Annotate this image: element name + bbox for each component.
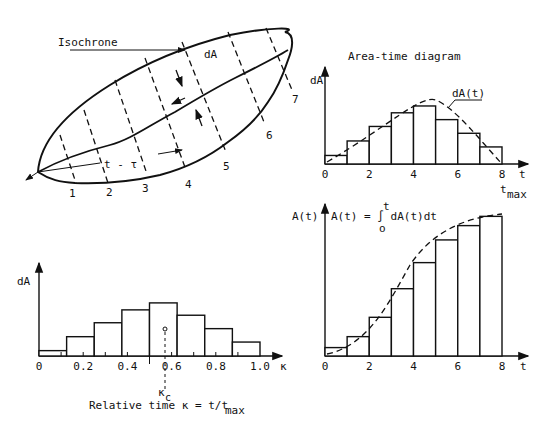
area-time-chart: Area-time diagram dA dA(t) 02468 t t max xyxy=(310,50,528,201)
tmax-subscript: max xyxy=(507,188,527,201)
bar xyxy=(232,342,260,356)
bar xyxy=(480,216,502,356)
x-tick-label: 0.6 xyxy=(162,360,182,373)
bar xyxy=(414,263,436,356)
bar xyxy=(480,147,502,164)
x-tick-label: 2 xyxy=(366,360,373,373)
isochrone-number: 1 xyxy=(69,187,76,200)
x-ticks: 00.20.40.60.81.0 xyxy=(36,360,270,373)
watershed-boundary xyxy=(38,29,292,184)
hydrology-figure: Isochrone dA t - τ 1 2 3 4 5 6 7 Area-ti… xyxy=(0,0,560,435)
caption: Relative time κ = t/t xyxy=(89,399,228,412)
bar xyxy=(369,126,391,164)
bar xyxy=(67,337,95,356)
bar xyxy=(391,289,413,356)
x-tick-label: 6 xyxy=(454,168,461,181)
kappa-c-label: κ xyxy=(158,386,165,399)
x-tick-label: 4 xyxy=(410,360,417,373)
isochrone-number: 7 xyxy=(292,93,299,106)
bars xyxy=(325,216,502,356)
bar xyxy=(122,310,150,356)
channel-arrow-icon xyxy=(172,98,185,104)
x-tick-label: 0.2 xyxy=(73,360,93,373)
isochrone-number: 4 xyxy=(185,178,192,191)
integral-lower-limit: o xyxy=(379,222,386,235)
watershed-diagram: Isochrone dA t - τ 1 2 3 4 5 6 7 xyxy=(26,28,299,200)
x-tick-label: 0 xyxy=(322,360,329,373)
bar xyxy=(177,315,205,356)
area-element-label: dA xyxy=(204,48,218,61)
x-tick-label: 0.8 xyxy=(206,360,226,373)
bar xyxy=(436,240,458,356)
relative-time-chart: dA 00.20.40.60.81.0 κ κ c Relative time … xyxy=(17,263,287,417)
bar xyxy=(39,351,67,356)
cumulative-area-chart: A(t) A(t) = ∫ dA(t)dt t o 02468 t xyxy=(292,200,528,373)
x-axis-label: t xyxy=(520,360,527,373)
curve-label: dA(t) xyxy=(452,87,485,100)
bar xyxy=(205,329,233,356)
x-axis-label: t xyxy=(519,168,526,181)
y-axis-label: dA xyxy=(17,275,31,288)
x-tick-label: 8 xyxy=(499,168,506,181)
flow-arrow-icon xyxy=(196,110,202,126)
bar xyxy=(414,106,436,164)
centroid-marker-icon xyxy=(163,327,167,331)
x-tick-label: 8 xyxy=(499,360,506,373)
isochrone-number: 2 xyxy=(106,186,113,199)
isochrone-number: 5 xyxy=(223,160,230,173)
isochrone-number: 6 xyxy=(266,129,273,142)
bar xyxy=(391,113,413,164)
travel-time-label: t - τ xyxy=(104,158,137,171)
bar xyxy=(347,141,369,164)
x-tick-label: 6 xyxy=(454,360,461,373)
x-tick-label: 0.4 xyxy=(118,360,138,373)
bars xyxy=(39,303,260,356)
tmax-label: t xyxy=(500,183,507,196)
caption-subscript: max xyxy=(225,404,245,417)
integral-upper-limit: t xyxy=(383,200,390,213)
bar xyxy=(94,323,122,356)
outlet-arrow-icon xyxy=(26,172,38,180)
x-tick-label: 4 xyxy=(410,168,417,181)
x-axis-label: κ xyxy=(280,360,287,373)
x-tick-label: 1.0 xyxy=(250,360,270,373)
flow-arrow-icon xyxy=(176,70,182,86)
x-tick-label: 0 xyxy=(322,168,329,181)
curve-leader xyxy=(448,100,455,108)
y-axis-label: dA xyxy=(310,74,324,87)
bar xyxy=(325,348,347,356)
y-axis-label: A(t) xyxy=(292,210,319,223)
bar xyxy=(458,226,480,356)
x-tick-label: 0 xyxy=(36,360,43,373)
chart-title: Area-time diagram xyxy=(348,50,461,63)
bar xyxy=(369,317,391,356)
travel-arrow-icon xyxy=(158,150,182,154)
bar xyxy=(436,120,458,164)
isochrone-label: Isochrone xyxy=(58,36,118,49)
x-ticks: 02468 xyxy=(322,168,506,181)
bar xyxy=(458,133,480,164)
x-tick-label: 2 xyxy=(366,168,373,181)
isochrone-number: 3 xyxy=(142,182,149,195)
x-ticks: 02468 xyxy=(322,360,506,373)
